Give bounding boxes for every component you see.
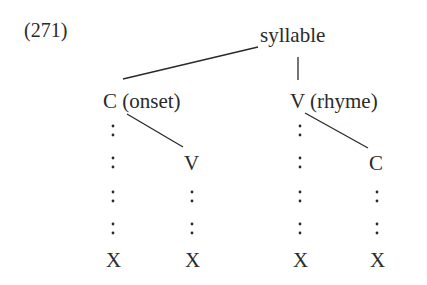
node-rhyme: V (rhyme) (290, 91, 378, 112)
node-onset-v: V (184, 153, 199, 174)
tree-edges (0, 0, 427, 285)
x-slot-1: X (106, 250, 121, 271)
edge-rhyme-c (305, 113, 368, 148)
node-syllable: syllable (260, 25, 325, 46)
example-number: (271) (24, 20, 67, 40)
edge-onset-v (127, 114, 183, 147)
x-slot-3: X (293, 250, 308, 271)
edge-syllable-onset (123, 47, 258, 79)
node-onset: C (onset) (103, 91, 181, 112)
x-slot-4: X (370, 250, 385, 271)
node-rhyme-c: C (369, 153, 383, 174)
association-dots (112, 125, 379, 235)
x-slot-2: X (185, 250, 200, 271)
